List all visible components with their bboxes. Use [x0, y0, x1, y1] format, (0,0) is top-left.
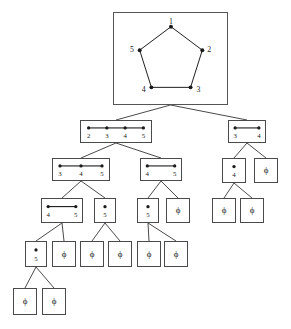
empty-set-symbol: ϕ	[53, 242, 75, 266]
graph-vertex-label-5: 5	[74, 211, 78, 218]
graph-vertex-label-4: 4	[232, 171, 236, 178]
graph-vertex-label-2: 2	[207, 45, 211, 54]
graph-vertex-label-3: 3	[105, 132, 109, 139]
path-graph: 45	[141, 159, 181, 180]
graph-vertex-5	[74, 205, 77, 208]
tree-edge	[36, 223, 62, 241]
path-graph: 5	[26, 242, 46, 266]
empty-node-g: ϕ	[108, 241, 132, 267]
recursion-tree-figure: 12345234534345454ϕ4555ϕϕϕ5ϕϕϕϕϕϕϕ	[0, 0, 291, 329]
empty-set-symbol: ϕ	[167, 199, 189, 222]
path-2345-node: 2345	[80, 120, 152, 143]
graph-vertex-label-4: 4	[46, 211, 50, 218]
edge-34-node: 34	[228, 120, 266, 143]
empty-node-f: ϕ	[80, 241, 104, 267]
graph-edge	[171, 27, 202, 50]
graph-vertex-5	[142, 126, 145, 129]
tree-edge	[247, 143, 266, 158]
tree-edge	[81, 181, 105, 198]
graph-edge	[140, 50, 152, 87]
graph-vertex-label-3: 3	[196, 85, 200, 94]
path-graph: 5	[95, 199, 115, 222]
tree-edge	[25, 267, 36, 288]
graph-vertex-2	[200, 48, 204, 52]
graph-vertex-5	[173, 164, 176, 167]
graph-vertex-2	[87, 126, 90, 129]
graph-vertex-label-5: 5	[103, 211, 107, 218]
edge-45-node: 45	[140, 158, 182, 181]
pentagon-graph: 12345	[114, 13, 227, 104]
path-345-node: 345	[52, 158, 110, 181]
empty-set-symbol: ϕ	[165, 242, 187, 266]
graph-vertex-label-5: 5	[100, 170, 104, 177]
graph-vertex-4	[146, 164, 149, 167]
empty-node-d: ϕ	[240, 198, 264, 223]
empty-node-b: ϕ	[166, 198, 190, 223]
empty-set-symbol: ϕ	[43, 289, 65, 314]
empty-set-symbol: ϕ	[213, 199, 235, 222]
graph-vertex-4	[232, 165, 235, 168]
graph-vertex-5	[100, 164, 103, 167]
tree-edge	[234, 143, 247, 158]
path-graph: 5	[138, 199, 158, 222]
graph-vertex-5	[138, 48, 142, 52]
path-graph: 34	[229, 121, 265, 142]
empty-node-h: ϕ	[137, 241, 161, 267]
tree-edge	[92, 223, 105, 241]
graph-vertex-label-1: 1	[169, 17, 173, 26]
graph-edge	[140, 27, 171, 50]
graph-vertex-3	[105, 126, 108, 129]
tree-edge	[171, 105, 248, 120]
tree-edge	[36, 267, 54, 288]
empty-set-symbol: ϕ	[255, 159, 277, 182]
graph-vertex-3	[233, 126, 236, 129]
empty-set-symbol: ϕ	[14, 289, 36, 314]
empty-node-i: ϕ	[164, 241, 188, 267]
tree-edge	[116, 105, 171, 120]
tree-edge	[234, 183, 252, 198]
graph-vertex-4	[257, 126, 260, 129]
tree-edge	[148, 223, 176, 241]
empty-node-e: ϕ	[52, 241, 76, 267]
graph-vertex-5	[146, 205, 149, 208]
empty-node-k: ϕ	[42, 288, 66, 315]
graph-vertex-5	[103, 205, 106, 208]
graph-vertex-4	[79, 164, 82, 167]
root-pentagon-node: 12345	[113, 12, 228, 105]
graph-vertex-label-3: 3	[58, 170, 62, 177]
graph-vertex-3	[189, 85, 193, 89]
empty-node-c: ϕ	[212, 198, 236, 223]
empty-set-symbol: ϕ	[81, 242, 103, 266]
graph-vertex-label-5: 5	[173, 170, 177, 177]
edge-45-node-2: 45	[41, 198, 83, 223]
path-graph: 45	[42, 199, 82, 222]
tree-edge	[224, 183, 234, 198]
graph-vertex-5	[34, 248, 37, 251]
single-5-node-a: 5	[94, 198, 116, 223]
tree-edge	[105, 223, 120, 241]
graph-vertex-label-4: 4	[123, 132, 127, 139]
tree-edge	[116, 143, 161, 158]
graph-edge	[191, 50, 203, 87]
tree-edge	[161, 181, 178, 198]
graph-vertex-4	[123, 126, 126, 129]
graph-vertex-label-3: 3	[233, 132, 237, 139]
single-4-node: 4	[222, 158, 246, 183]
graph-vertex-label-4: 4	[257, 132, 261, 139]
graph-vertex-4	[149, 85, 153, 89]
empty-node-a: ϕ	[254, 158, 278, 183]
graph-vertex-label-5: 5	[142, 132, 146, 139]
tree-edge	[62, 223, 64, 241]
graph-vertex-label-4: 4	[79, 170, 83, 177]
empty-node-j: ϕ	[13, 288, 37, 315]
path-graph: 345	[53, 159, 109, 180]
graph-vertex-label-5: 5	[146, 211, 150, 218]
path-graph: 4	[223, 159, 245, 182]
empty-set-symbol: ϕ	[241, 199, 263, 222]
tree-edge	[81, 143, 116, 158]
single-5-node-c: 5	[25, 241, 47, 267]
tree-edge	[62, 181, 81, 198]
graph-vertex-label-5: 5	[130, 45, 134, 54]
empty-set-symbol: ϕ	[109, 242, 131, 266]
path-graph: 2345	[81, 121, 151, 142]
